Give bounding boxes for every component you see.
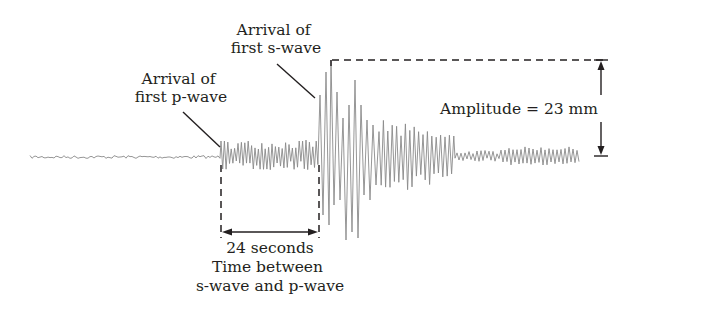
amplitude-label: Amplitude = 23 mm	[439, 100, 598, 118]
s-wave-leader-line	[277, 64, 315, 98]
p-wave-label: Arrival of first p-wave	[135, 70, 227, 106]
amplitude-arrow-up-head	[598, 61, 605, 70]
interval-caption: Time between s-wave and p-wave	[196, 258, 344, 295]
seismogram-diagram: Arrival of first p-wave Arrival of first…	[0, 0, 711, 324]
interval-arrow-left-head	[222, 229, 232, 236]
amplitude-arrow-down-head	[598, 146, 605, 155]
s-wave-label: Arrival of first s-wave	[231, 21, 322, 57]
interval-value-label: 24 seconds	[226, 239, 314, 257]
interval-arrow-right-head	[308, 229, 318, 236]
p-wave-leader-line	[183, 112, 220, 147]
seismogram-trace	[30, 60, 579, 240]
